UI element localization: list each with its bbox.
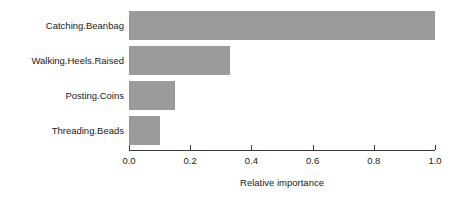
x-axis-tick-label: 0.6 (298, 155, 328, 166)
x-axis-tick-label: 0.0 (114, 155, 144, 166)
x-axis-line (129, 150, 435, 151)
x-axis-tick (435, 145, 436, 150)
bar (129, 11, 435, 40)
category-label-text: Walking.Heels.Raised (31, 55, 124, 66)
category-label: Posting.Coins (0, 91, 124, 101)
x-axis-label: Relative importance (129, 177, 435, 188)
x-axis-tick-label: 1.0 (420, 155, 450, 166)
x-axis-tick-label: 0.8 (359, 155, 389, 166)
bar-chart: Catching.Beanbag Walking.Heels.Raised Po… (0, 0, 458, 204)
category-label: Walking.Heels.Raised (0, 56, 124, 66)
x-axis-tick-label: 0.2 (175, 155, 205, 166)
category-label: Catching.Beanbag (0, 21, 124, 31)
x-axis-tick (313, 145, 314, 150)
x-axis-tick (190, 145, 191, 150)
x-axis-tick-label: 0.4 (236, 155, 266, 166)
x-axis-tick (129, 145, 130, 150)
category-label: Threading.Beads (0, 126, 124, 136)
bar (129, 116, 160, 145)
bar (129, 81, 175, 110)
bar (129, 46, 230, 75)
category-label-text: Threading.Beads (52, 125, 124, 136)
category-label-text: Posting.Coins (65, 90, 124, 101)
x-axis-tick (251, 145, 252, 150)
x-axis-tick (374, 145, 375, 150)
plot-area (129, 0, 435, 150)
category-label-text: Catching.Beanbag (46, 20, 124, 31)
